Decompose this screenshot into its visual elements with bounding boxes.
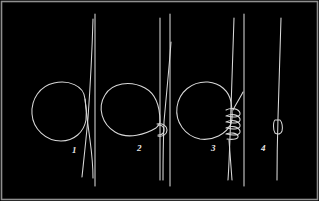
knot-illustration: [0, 0, 319, 201]
knot-diagram-figure: Fishing knot tying sequence Four-step li…: [0, 0, 319, 201]
step-label-1: 1: [72, 146, 77, 155]
step-label-2: 2: [137, 144, 142, 153]
step-label-3: 3: [211, 144, 216, 153]
step-label-4: 4: [261, 144, 266, 153]
